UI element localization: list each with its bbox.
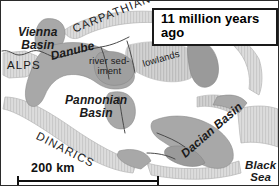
black-sea-coast-belt [237, 106, 278, 147]
scale-bar-label: 200 km [31, 161, 143, 175]
map-title-box: 11 million years ago [152, 8, 278, 46]
scale-bar-tick-start [17, 176, 19, 185]
scale-bar-rule [15, 176, 143, 185]
pannonian-sediment [105, 92, 135, 129]
scale-bar: 200 km [15, 161, 143, 185]
scale-bar-line [17, 180, 159, 182]
scale-bar-tick-end [157, 176, 159, 185]
paleogeographic-map: 11 million years ago Vienna Basin ALPS C… [0, 0, 279, 186]
